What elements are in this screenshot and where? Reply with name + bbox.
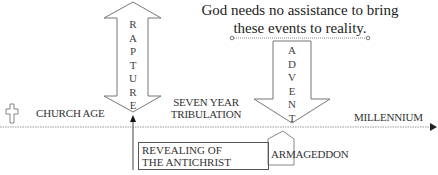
quote-line-2: these events to reality. — [218, 19, 382, 37]
antichrist-pointer-arrowhead-icon — [130, 115, 136, 122]
arrow-right-icon — [430, 123, 437, 131]
event-armageddon: ARMAGEDDON — [271, 148, 348, 160]
period-millennium: MILLENNIUM — [354, 111, 423, 123]
quote-text: God needs no assistance to bring these e… — [218, 1, 382, 37]
event-revealing-antichrist: REVEALING OF THE ANTICHRIST — [138, 142, 269, 170]
cross-icon — [6, 104, 18, 123]
period-seven-year-tribulation: SEVEN YEAR TRIBULATION — [170, 96, 242, 120]
quote-line-1: God needs no assistance to bring — [198, 1, 402, 19]
advent-label: A D V E N T — [285, 44, 299, 125]
rapture-label: R A P T U R E — [126, 18, 140, 113]
period-church-age: CHURCH AGE — [36, 107, 105, 119]
